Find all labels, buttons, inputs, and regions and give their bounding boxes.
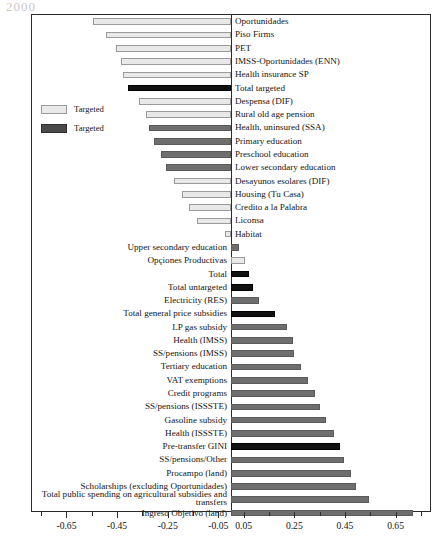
bar-positive[interactable]	[231, 284, 253, 291]
axis-tick	[218, 512, 219, 518]
chart-row: IMSS-Oportunidades (ENN)	[0, 55, 440, 68]
legend-swatch-light-icon	[41, 105, 67, 114]
category-label: Health (ISSSTE)	[165, 427, 227, 440]
bar-negative[interactable]	[182, 191, 231, 198]
bar-positive[interactable]	[231, 271, 249, 278]
axis-minor-tick	[193, 512, 194, 516]
chart-row: Procampo (land)	[0, 467, 440, 480]
bar-negative[interactable]	[197, 218, 231, 225]
category-label: Oportunidades	[235, 15, 289, 28]
category-label: Electricity (RES)	[164, 294, 227, 307]
category-label: Primary education	[235, 135, 302, 148]
axis-tick-label: 0.25	[286, 520, 303, 532]
category-label: Rural old age pension	[235, 108, 315, 121]
axis-tick	[294, 512, 295, 518]
chart-row: Tertiary education	[0, 360, 440, 373]
chart-row: PET	[0, 42, 440, 55]
chart-row: Primary education	[0, 135, 440, 148]
chart-row: SS/pensions (ISSSTE)	[0, 400, 440, 413]
category-label: Total public spending on agricultural su…	[37, 490, 227, 506]
bar-negative[interactable]	[149, 125, 231, 132]
chart-row: LP gas subsidy	[0, 321, 440, 334]
chart-row: Piso Firms	[0, 28, 440, 41]
category-label: Total	[208, 268, 227, 281]
category-label: Credito a la Palabra	[235, 201, 307, 214]
bar-positive[interactable]	[231, 324, 287, 331]
axis-tick-label: -0.45	[107, 520, 127, 532]
category-label: Housing (Tu Casa)	[235, 188, 304, 201]
bar-negative[interactable]	[93, 18, 231, 25]
axis-tick-label: -0.65	[56, 520, 76, 532]
bar-positive[interactable]	[231, 297, 259, 304]
chart-row: Gasoline subsidy	[0, 414, 440, 427]
bar-positive[interactable]	[231, 364, 301, 371]
bar-positive[interactable]	[231, 311, 275, 318]
bar-positive[interactable]	[231, 496, 369, 503]
chart-row: Health (ISSSTE)	[0, 427, 440, 440]
bar-positive[interactable]	[231, 417, 326, 424]
chart-row: Total	[0, 268, 440, 281]
category-label: Piso Firms	[235, 28, 274, 41]
bar-negative[interactable]	[121, 58, 231, 65]
bar-negative[interactable]	[128, 85, 231, 92]
bar-positive[interactable]	[231, 404, 320, 411]
bar-negative[interactable]	[189, 204, 231, 211]
axis-tick-label: 0.65	[387, 520, 404, 532]
category-label: VAT exemptions	[166, 374, 227, 387]
category-label: IMSS-Oportunidades (ENN)	[235, 55, 340, 68]
category-label: Opçiones Productivas	[147, 254, 227, 267]
chart-row: Credit programs	[0, 387, 440, 400]
category-label: Desayunos esolares (DIF)	[235, 175, 329, 188]
bar-positive[interactable]	[231, 470, 351, 477]
bar-positive[interactable]	[231, 430, 334, 437]
category-label: PET	[235, 42, 251, 55]
axis-minor-tick	[269, 512, 270, 516]
legend-label-dark: Targeted	[74, 122, 104, 135]
category-label: Gasoline subsidy	[165, 414, 227, 427]
bar-positive[interactable]	[231, 457, 344, 464]
bar-positive[interactable]	[231, 443, 340, 450]
bar-negative[interactable]	[139, 98, 231, 105]
axis-tick	[117, 512, 118, 518]
chart-row: Total general price subsidies	[0, 307, 440, 320]
bar-positive[interactable]	[231, 483, 356, 490]
bar-negative[interactable]	[154, 138, 231, 145]
axis-tick-label: 0.45	[337, 520, 354, 532]
category-label: Health (IMSS)	[173, 334, 227, 347]
axis-tick	[244, 512, 245, 518]
bar-negative[interactable]	[174, 178, 231, 185]
bar-negative[interactable]	[123, 72, 231, 79]
axis-tick	[168, 512, 169, 518]
bar-positive[interactable]	[231, 244, 239, 251]
x-axis-ticks: -0.65-0.45-0.25-0.050.050.250.450.65	[31, 512, 431, 544]
category-label: Habitat	[235, 228, 262, 241]
category-label: Health, uninsured (SSA)	[235, 121, 325, 134]
bar-negative[interactable]	[106, 32, 231, 39]
chart-row: Housing (Tu Casa)	[0, 188, 440, 201]
chart-row: Desayunos esolares (DIF)	[0, 175, 440, 188]
bar-negative[interactable]	[146, 111, 231, 118]
chart-row: Credito a la Palabra	[0, 201, 440, 214]
bar-negative[interactable]	[116, 45, 231, 52]
category-label: Preschool education	[235, 148, 309, 161]
category-label: Total general price subsidies	[123, 307, 227, 320]
bar-positive[interactable]	[231, 390, 315, 397]
category-label: LP gas subsidy	[172, 321, 227, 334]
bar-positive[interactable]	[231, 337, 293, 344]
bar-negative[interactable]	[225, 231, 231, 238]
chart-row: Lower secondary education	[0, 161, 440, 174]
axis-tick	[396, 512, 397, 518]
category-label: Procampo (land)	[166, 467, 227, 480]
bar-negative[interactable]	[161, 151, 231, 158]
bar-positive[interactable]	[231, 257, 245, 264]
chart-row: SS/pensions (IMSS)	[0, 347, 440, 360]
bar-positive[interactable]	[231, 377, 308, 384]
bar-positive[interactable]	[231, 350, 294, 357]
chart-row: Pre-transfer GINI	[0, 440, 440, 453]
category-label: Health insurance SP	[235, 68, 309, 81]
axis-minor-tick	[92, 512, 93, 516]
category-label: Tertiary education	[161, 360, 227, 373]
bar-negative[interactable]	[166, 164, 231, 171]
chart-row: Health insurance SP	[0, 68, 440, 81]
chart-row: Opçiones Productivas	[0, 254, 440, 267]
